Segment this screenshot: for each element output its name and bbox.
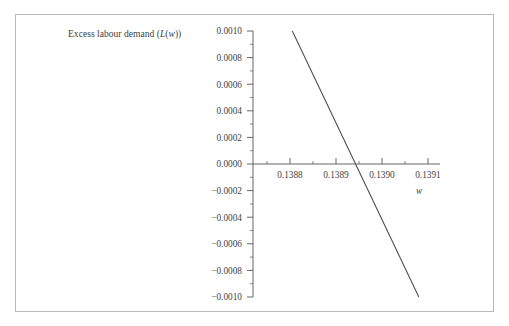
y-tick-label: 0.0004 <box>216 106 242 116</box>
chart-title: Excess labour demand (L(w)) <box>68 28 181 40</box>
y-tick-label: 0.0008 <box>216 53 242 63</box>
figure-container: Excess labour demand (L(w)) <box>0 0 509 326</box>
y-tick-label: −0.0004 <box>211 213 242 223</box>
x-axis-label: w <box>416 186 423 196</box>
y-tick-label: 0.0006 <box>216 80 242 90</box>
x-tick-label: 0.1388 <box>277 170 303 180</box>
excess-labour-demand-chart: Excess labour demand (L(w)) <box>0 0 509 326</box>
y-tick-label: 0.0000 <box>216 159 242 169</box>
x-tick-label: 0.1391 <box>415 170 441 180</box>
chart-title-prefix: Excess labour demand ( <box>68 28 160 40</box>
x-tick-label: 0.1389 <box>323 170 349 180</box>
chart-title-close: )) <box>175 28 181 40</box>
y-axis-tick-labels: 0.0010 0.0008 0.0006 0.0004 0.0002 0.000… <box>211 26 242 302</box>
y-tick-label: −0.0008 <box>211 266 242 276</box>
y-tick-label: 0.0010 <box>216 26 242 36</box>
y-tick-label: −0.0002 <box>211 186 242 196</box>
x-tick-label: 0.1390 <box>369 170 395 180</box>
y-tick-label: 0.0002 <box>216 133 242 143</box>
y-tick-label: −0.0010 <box>211 292 242 302</box>
y-tick-label: −0.0006 <box>211 239 242 249</box>
